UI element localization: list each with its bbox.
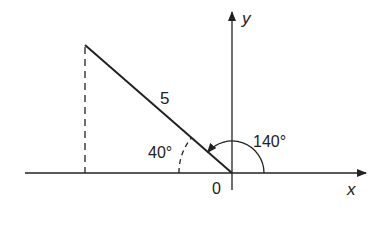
- reference-angle-arc: [179, 138, 191, 173]
- reference-angle-label: 40°: [148, 144, 172, 161]
- y-axis-label: y: [241, 9, 252, 28]
- x-axis-label: x: [346, 180, 356, 199]
- origin-label: 0: [212, 180, 221, 197]
- diagram-canvas: 5 140° 40° 0 x y: [0, 0, 382, 229]
- segment-length-label: 5: [160, 89, 169, 108]
- standard-angle-label: 140°: [253, 133, 286, 150]
